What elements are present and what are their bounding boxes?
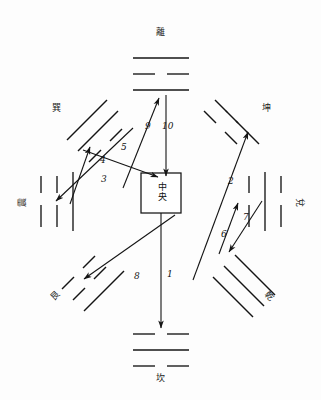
center-char-2: 央 xyxy=(152,192,172,202)
arrow-number-4: 4 xyxy=(100,156,106,165)
trigram-dui xyxy=(249,172,281,231)
arrow-number-10: 10 xyxy=(162,122,173,131)
diagram-canvas: 中 央 離 坎 震 兌 巽 坤 艮 乾 1 2 3 4 5 6 7 8 9 10 xyxy=(0,0,321,400)
arrow-5 xyxy=(83,150,158,177)
trigram-kun xyxy=(204,100,259,144)
trigram-label-zhen: 震 xyxy=(18,198,27,207)
trigram-li xyxy=(133,58,189,90)
trigram-label-li: 離 xyxy=(156,28,165,37)
trigram-label-kun: 坤 xyxy=(262,104,271,113)
arrow-number-7: 7 xyxy=(243,213,249,222)
trigram-zhen xyxy=(41,172,73,231)
trigram-qian xyxy=(213,255,275,317)
trigram-label-kan: 坎 xyxy=(156,374,165,383)
trigram-kan xyxy=(133,334,189,366)
arrow-number-1: 1 xyxy=(167,270,173,279)
arrow-number-9: 9 xyxy=(145,122,151,131)
trigram-gen xyxy=(62,256,124,311)
arrow-number-8: 8 xyxy=(134,272,140,281)
arrow-6 xyxy=(229,201,262,252)
arrow-2 xyxy=(193,132,248,280)
center-char-1: 中 xyxy=(152,182,172,192)
center-region-label: 中 央 xyxy=(152,182,172,203)
trigram-label-xun: 巽 xyxy=(52,104,61,113)
arrow-number-3: 3 xyxy=(101,175,107,184)
arrow-number-6: 6 xyxy=(221,230,227,239)
arrow-number-2: 2 xyxy=(228,177,234,186)
arrow-number-5: 5 xyxy=(121,143,127,152)
trigram-label-dui: 兌 xyxy=(295,198,304,207)
trigram-xun xyxy=(67,100,122,162)
